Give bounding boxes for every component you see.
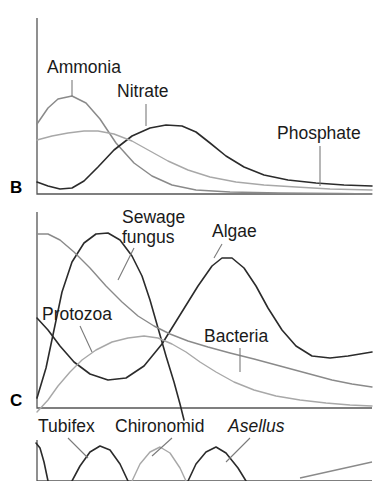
- panel-letter-b: B: [10, 178, 22, 197]
- pollution-indicator-figure: Ammonia Nitrate Phosphate B Sewage fungu…: [0, 0, 384, 481]
- label-nitrate: Nitrate: [117, 81, 169, 101]
- label-sewage: Sewage: [122, 207, 185, 227]
- label-protozoa: Protozoa: [42, 304, 112, 324]
- label-asellus: Asellus: [227, 416, 285, 436]
- label-algae: Algae: [212, 221, 257, 241]
- label-ammonia: Ammonia: [47, 57, 121, 77]
- label-phosphate: Phosphate: [277, 123, 361, 143]
- label-tubifex: Tubifex: [38, 416, 95, 436]
- label-chironomid: Chironomid: [115, 416, 204, 436]
- panel-letter-c: C: [10, 391, 22, 410]
- label-fungus: fungus: [122, 227, 175, 247]
- label-bacteria: Bacteria: [204, 326, 268, 346]
